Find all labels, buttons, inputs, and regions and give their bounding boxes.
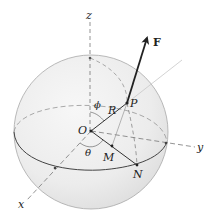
theta-label: θ bbox=[85, 147, 91, 158]
phi-label: ϕ bbox=[94, 99, 101, 110]
y-axis-label: y bbox=[196, 141, 204, 154]
point-x-equator bbox=[54, 167, 57, 170]
force-label: F bbox=[153, 36, 161, 49]
point-p-label: P bbox=[129, 97, 138, 110]
spherical-coordinates-diagram: z y x O P M N R ϕ θ F bbox=[0, 0, 213, 217]
point-n-label: N bbox=[132, 168, 143, 181]
radius-label: R bbox=[107, 104, 116, 117]
point-p bbox=[125, 101, 128, 104]
point-y-equator bbox=[165, 142, 168, 145]
point-n bbox=[136, 164, 139, 167]
point-o bbox=[89, 129, 92, 132]
z-axis-label: z bbox=[85, 9, 92, 22]
point-m-label: M bbox=[102, 151, 115, 164]
x-axis-label: x bbox=[18, 198, 25, 211]
point-m bbox=[111, 145, 114, 148]
origin-label: O bbox=[78, 124, 87, 137]
point-pole bbox=[89, 57, 92, 60]
